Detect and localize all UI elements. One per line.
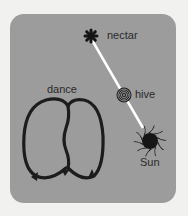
hive-label: hive bbox=[135, 89, 155, 100]
sun-label: Sun bbox=[140, 157, 160, 168]
dance-label: dance bbox=[47, 84, 77, 95]
nectar-label: nectar bbox=[107, 30, 138, 41]
diagram-graphics bbox=[0, 0, 188, 216]
dance-path bbox=[24, 99, 103, 178]
sun-icon bbox=[133, 125, 166, 157]
hive-icon bbox=[117, 88, 132, 103]
nectar-icon bbox=[85, 30, 97, 42]
